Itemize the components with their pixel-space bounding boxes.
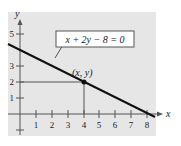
point-label: (x, y) — [72, 67, 93, 79]
x-axis-arrow-icon — [157, 112, 163, 117]
y-tick-label: 1 — [10, 93, 15, 103]
x-tick-label: 5 — [97, 120, 102, 130]
x-tick-label: 6 — [113, 120, 118, 130]
y-tick-label: 3 — [10, 61, 15, 71]
y-axis-label: y — [14, 8, 20, 19]
x-tick-label: 4 — [82, 120, 87, 130]
x-axis-label: x — [165, 108, 171, 119]
x-tick-label: 8 — [145, 120, 150, 130]
point-marker — [82, 80, 87, 85]
chart: x y 1 2 3 4 5 6 7 8 1 2 3 5 — [0, 0, 181, 146]
x-tick-label: 1 — [34, 120, 39, 130]
equation-label: x + 2y − 8 = 0 — [64, 34, 124, 45]
x-tick-label: 2 — [50, 120, 55, 130]
y-tick-label: 5 — [10, 29, 15, 39]
x-tick-label: 7 — [129, 120, 134, 130]
x-tick-label: 3 — [66, 120, 71, 130]
y-tick-label: 2 — [10, 77, 15, 87]
